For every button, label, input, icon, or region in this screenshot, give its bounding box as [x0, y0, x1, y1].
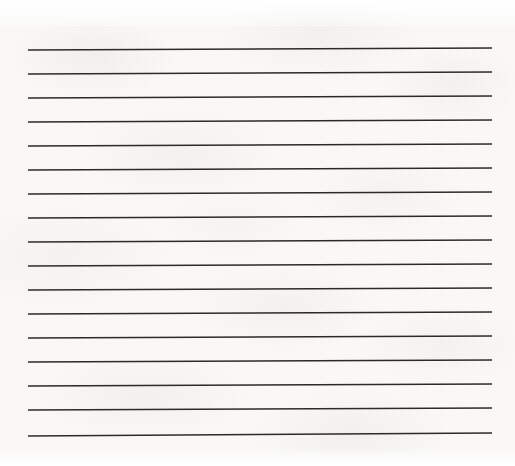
rule-line [28, 240, 492, 242]
rule-line [28, 72, 492, 74]
rule-line [28, 336, 492, 338]
rule-line [28, 96, 492, 98]
ruled-lines-layer [0, 0, 515, 466]
rule-line [28, 408, 492, 410]
rule-line [28, 192, 492, 194]
rule-line [28, 312, 492, 314]
rule-line [28, 384, 492, 386]
rule-line [28, 216, 492, 218]
rule-line [28, 288, 492, 290]
ruled-lines-svg [0, 0, 515, 466]
rule-line [28, 48, 492, 50]
rule-line [28, 433, 492, 436]
rule-line [28, 144, 492, 146]
rule-line [28, 168, 492, 170]
scanned-page [0, 0, 515, 466]
rule-line [28, 264, 492, 266]
rule-line [28, 360, 492, 362]
rule-line [28, 120, 492, 122]
